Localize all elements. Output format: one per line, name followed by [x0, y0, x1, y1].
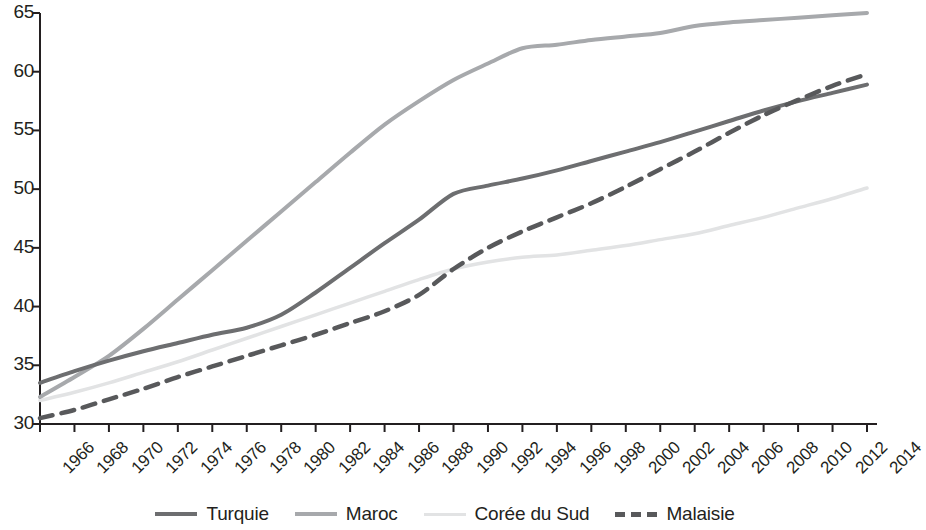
y-axis-tick-label: 50 [0, 177, 34, 199]
legend-swatch-icon [155, 512, 197, 516]
y-axis-tick-label: 35 [0, 353, 34, 375]
y-axis-tick-label: 30 [0, 412, 34, 434]
legend-item-malaisie[interactable]: Malaisie [615, 503, 734, 525]
legend-label: Maroc [346, 503, 398, 525]
y-axis-tick-label: 40 [0, 295, 34, 317]
legend-label: Malaisie [666, 503, 734, 525]
series-line-cor-e-du-sud [40, 188, 867, 401]
legend-item-maroc[interactable]: Maroc [295, 503, 398, 525]
legend-item-turquie[interactable]: Turquie [155, 503, 268, 525]
legend-swatch-icon [424, 513, 466, 516]
y-axis-tick-label: 55 [0, 118, 34, 140]
legend-item-cor-e-du-sud[interactable]: Corée du Sud [424, 503, 590, 525]
series-line-turquie [40, 85, 867, 383]
x-axis-tick-label: 2014 [886, 438, 926, 478]
y-axis-tick-label: 65 [0, 1, 34, 23]
y-axis-tick-label: 45 [0, 236, 34, 258]
legend-label: Corée du Sud [475, 503, 590, 525]
legend-label: Turquie [206, 503, 268, 525]
legend-swatch-icon [295, 512, 337, 516]
y-axis-tick-label: 60 [0, 60, 34, 82]
chart-legend: TurquieMarocCorée du SudMalaisie [0, 498, 890, 530]
series-line-maroc [40, 13, 867, 397]
legend-swatch-icon [615, 512, 657, 517]
